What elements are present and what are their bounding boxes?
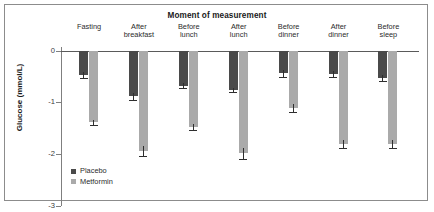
bar-fill <box>189 51 198 127</box>
error-bar <box>293 104 294 113</box>
error-bar-cap <box>90 125 98 126</box>
category-label: Afterdinner <box>316 23 362 40</box>
error-bar <box>392 140 393 149</box>
error-bar-cap <box>279 77 287 78</box>
error-bar-cap <box>389 148 397 149</box>
category-label: Afterlunch <box>216 23 262 40</box>
error-bar-cap <box>239 159 247 160</box>
bars <box>266 51 312 201</box>
y-tick-label: -2 <box>15 149 55 158</box>
legend-swatch-placebo <box>71 169 76 174</box>
bar-fill <box>339 51 348 144</box>
legend-item-placebo: Placebo <box>71 166 113 177</box>
error-bar <box>243 148 244 159</box>
error-bar-cap <box>379 81 387 82</box>
bars <box>116 51 162 201</box>
category-label: Beforedinner <box>266 23 312 40</box>
error-bar-cap <box>189 130 197 131</box>
y-tick <box>56 206 61 207</box>
bars <box>316 51 362 201</box>
error-bar-cap <box>339 148 347 149</box>
bar-fill <box>388 51 397 144</box>
legend-label-metformin: Metformin <box>80 177 113 188</box>
category-label: Fasting <box>66 23 112 31</box>
chart-legend: Placebo Metformin <box>71 166 113 187</box>
category-label: Beforesleep <box>365 23 411 40</box>
bars <box>365 51 411 201</box>
bar-fill <box>129 51 138 96</box>
error-bar-cap <box>229 92 237 93</box>
legend-item-metformin: Metformin <box>71 177 113 188</box>
error-bar <box>143 146 144 156</box>
bar-fill <box>239 51 248 153</box>
error-bar-cap <box>129 100 137 101</box>
error-bar-cap <box>289 112 297 113</box>
error-bar-cap <box>179 88 187 89</box>
y-tick-label: 0 <box>15 46 55 55</box>
y-tick <box>56 102 61 103</box>
y-tick-label: -3 <box>15 201 55 210</box>
error-bar-cap <box>139 156 147 157</box>
y-tick <box>56 154 61 155</box>
category-label: Beforelunch <box>166 23 212 40</box>
bars <box>166 51 212 201</box>
bars <box>216 51 262 201</box>
y-axis-line <box>61 47 62 206</box>
bar-fill <box>289 51 298 108</box>
legend-swatch-metformin <box>71 179 76 184</box>
error-bar <box>283 70 284 77</box>
error-bar-cap <box>80 78 88 79</box>
figure-frame: Moment of measurement Glucose (mmol/L) 0… <box>4 4 428 201</box>
bar-fill <box>89 51 98 122</box>
bar-fill <box>229 51 238 90</box>
error-bar-cap <box>329 77 337 78</box>
y-tick-label: -1 <box>15 98 55 107</box>
category-label: Afterbreakfast <box>116 23 162 40</box>
legend-label-placebo: Placebo <box>80 166 107 177</box>
y-tick <box>56 51 61 52</box>
bar-fill <box>139 51 148 151</box>
error-bar <box>343 140 344 149</box>
bar-fill <box>179 51 188 86</box>
